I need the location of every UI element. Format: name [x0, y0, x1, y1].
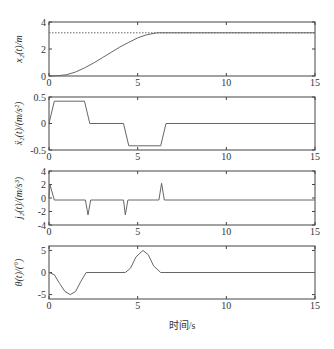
y-tick-label: 0: [41, 267, 46, 278]
x-tick-label: 5: [135, 151, 140, 162]
y-tick-label: 2: [41, 179, 46, 190]
subplot-4: 051015-505θ(t)/(°): [13, 245, 320, 311]
y-tick-label: -4: [38, 220, 46, 231]
y-tick-label: -5: [38, 289, 46, 300]
y-axis-label: ẍ₂(t)/(m/s²): [13, 101, 25, 146]
x-tick-label: 5: [135, 226, 140, 237]
x-tick-label: 10: [221, 226, 231, 237]
x-tick-label: 0: [47, 226, 52, 237]
x-tick-label: 15: [310, 77, 320, 88]
y-tick-label: 5: [41, 245, 46, 256]
y-axis-label: x₂(t)/m: [13, 35, 25, 63]
subplot-3: 051015-4-2024j₂(t)/(m/s³): [13, 166, 320, 238]
x-tick-label: 15: [310, 151, 320, 162]
series-jerk: [49, 183, 315, 215]
x-tick-label: 15: [310, 300, 320, 311]
y-axis-label: θ(t)/(°): [13, 258, 25, 286]
y-tick-label: -0.5: [30, 145, 46, 156]
x-tick-label: 15: [310, 226, 320, 237]
y-tick-label: 0: [41, 118, 46, 129]
y-tick-label: 4: [41, 17, 46, 28]
x-axis-label: 时间/s: [169, 319, 196, 331]
y-tick-label: -2: [38, 206, 46, 217]
x-tick-label: 0: [47, 77, 52, 88]
x-tick-label: 5: [135, 77, 140, 88]
x-tick-label: 10: [221, 77, 231, 88]
figure: 051015024x₂(t)/m051015-0.500.5ẍ₂(t)/(m/s…: [0, 0, 334, 349]
subplot-1: 051015024x₂(t)/m: [13, 17, 320, 89]
series-theta: [49, 250, 315, 294]
x-tick-label: 0: [47, 300, 52, 311]
y-tick-label: 0.5: [34, 92, 47, 103]
x-tick-label: 10: [221, 151, 231, 162]
subplot-2: 051015-0.500.5ẍ₂(t)/(m/s²): [13, 92, 320, 163]
x-tick-label: 5: [135, 300, 140, 311]
x-tick-label: 10: [221, 300, 231, 311]
y-tick-label: 0: [41, 71, 46, 82]
axes-frame: [49, 22, 315, 76]
x-tick-label: 0: [47, 151, 52, 162]
y-tick-label: 2: [41, 44, 46, 55]
series-acc: [49, 101, 315, 146]
y-tick-label: 0: [41, 193, 46, 204]
axes-frame: [49, 171, 315, 225]
y-tick-label: 4: [41, 166, 46, 177]
y-axis-label: j₂(t)/(m/s³): [13, 176, 25, 221]
series-x2: [49, 33, 315, 76]
